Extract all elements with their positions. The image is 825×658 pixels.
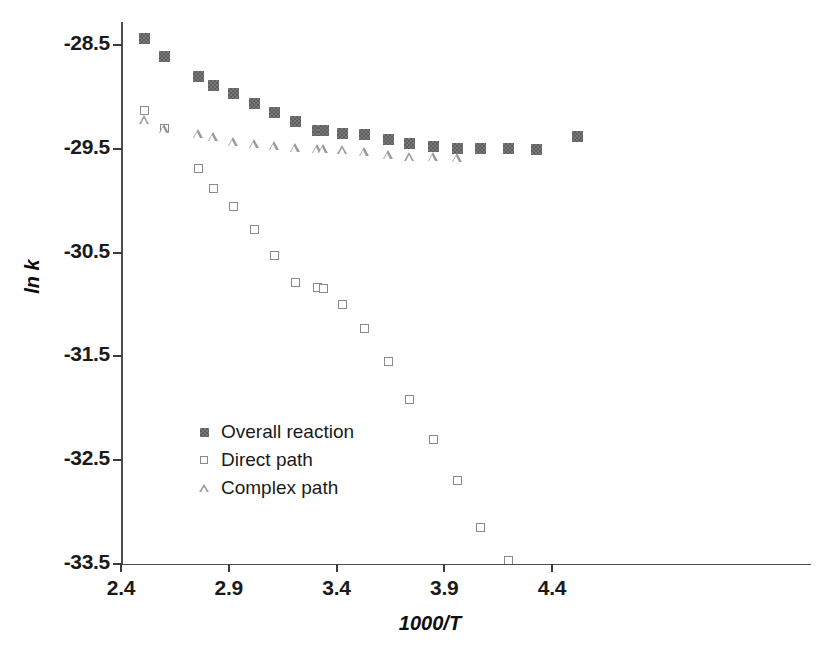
data-point-filled-square <box>531 144 542 155</box>
x-axis-title: 1000/T <box>0 612 825 635</box>
x-tick-label: 3.4 <box>297 576 377 600</box>
data-point-filled-square <box>269 107 280 118</box>
data-point-open-triangle <box>139 115 149 124</box>
y-axis-title: ln k <box>21 232 44 322</box>
y-tick-label: -29.5 <box>2 135 110 159</box>
data-point-open-square <box>209 184 218 193</box>
data-point-open-triangle <box>290 143 300 152</box>
legend-item[interactable]: Overall reaction <box>196 418 354 446</box>
x-tick-mark <box>551 564 553 572</box>
x-tick-label: 2.4 <box>81 576 161 600</box>
data-point-filled-square <box>359 129 370 140</box>
data-point-filled-square <box>475 143 486 154</box>
y-tick-label: -30.5 <box>2 239 110 263</box>
y-tick-label: -32.5 <box>2 446 110 470</box>
data-point-open-square <box>140 106 149 115</box>
data-point-open-triangle <box>159 124 169 133</box>
data-point-open-triangle <box>318 144 328 153</box>
x-axis-line <box>121 564 811 565</box>
x-tick-label: 3.9 <box>404 576 484 600</box>
y-tick-mark <box>113 355 122 357</box>
legend-item[interactable]: Complex path <box>196 474 354 502</box>
legend-marker-filled-square-icon <box>196 424 212 440</box>
x-tick-label: 4.4 <box>512 576 592 600</box>
data-point-filled-square <box>503 143 514 154</box>
data-point-filled-square <box>337 128 348 139</box>
data-point-open-square <box>229 202 238 211</box>
y-tick-mark <box>113 252 122 254</box>
y-tick-mark <box>113 459 122 461</box>
data-point-filled-square <box>318 125 329 136</box>
data-point-open-triangle <box>404 152 414 161</box>
data-point-open-square <box>453 476 462 485</box>
data-point-open-square <box>476 523 485 532</box>
legend-marker-open-square-icon <box>196 452 212 468</box>
y-axis-line <box>121 22 123 565</box>
legend-label: Direct path <box>221 449 313 471</box>
legend-label: Overall reaction <box>221 421 354 443</box>
y-tick-label: -28.5 <box>2 31 110 55</box>
data-point-filled-square <box>383 134 394 145</box>
data-point-open-triangle <box>249 139 259 148</box>
x-tick-label: 2.9 <box>189 576 269 600</box>
data-point-open-triangle <box>228 137 238 146</box>
data-point-filled-square <box>572 131 583 142</box>
data-point-open-triangle <box>208 132 218 141</box>
data-point-open-square <box>270 251 279 260</box>
data-point-open-triangle <box>383 150 393 159</box>
data-point-filled-square <box>159 51 170 62</box>
data-point-open-square <box>338 300 347 309</box>
x-tick-mark <box>120 564 122 572</box>
y-tick-label: -31.5 <box>2 342 110 366</box>
data-point-open-square <box>429 435 438 444</box>
data-point-filled-square <box>249 98 260 109</box>
data-point-filled-square <box>193 71 204 82</box>
data-point-open-square <box>405 395 414 404</box>
data-point-open-triangle <box>337 145 347 154</box>
data-point-open-triangle <box>269 141 279 150</box>
y-tick-label: -33.5 <box>2 550 110 574</box>
y-tick-mark <box>113 148 122 150</box>
data-point-open-triangle <box>428 152 438 161</box>
chart-legend: Overall reactionDirect pathComplex path <box>196 418 354 502</box>
x-tick-mark <box>336 564 338 572</box>
data-point-filled-square <box>428 141 439 152</box>
data-point-open-triangle <box>359 147 369 156</box>
data-point-open-triangle <box>452 153 462 162</box>
y-tick-mark <box>113 44 122 46</box>
data-point-open-square <box>384 357 393 366</box>
data-point-open-triangle <box>193 129 203 138</box>
data-point-open-square <box>291 278 300 287</box>
data-point-open-square <box>360 324 369 333</box>
legend-label: Complex path <box>221 477 338 499</box>
data-point-open-square <box>194 164 203 173</box>
data-point-filled-square <box>404 138 415 149</box>
legend-marker-open-triangle-icon <box>196 480 212 496</box>
data-point-open-square <box>319 284 328 293</box>
data-point-filled-square <box>290 116 301 127</box>
x-tick-mark <box>228 564 230 572</box>
data-point-filled-square <box>228 88 239 99</box>
scatter-chart-figure: -28.5-29.5-30.5-31.5-32.5-33.5 2.42.93.4… <box>0 0 825 658</box>
legend-item[interactable]: Direct path <box>196 446 354 474</box>
data-point-filled-square <box>208 80 219 91</box>
data-point-open-square <box>250 225 259 234</box>
data-point-filled-square <box>139 33 150 44</box>
x-tick-mark <box>443 564 445 572</box>
